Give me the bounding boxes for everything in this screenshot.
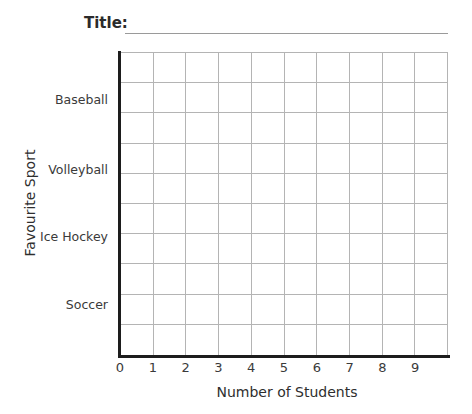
grid-cell[interactable] [153, 234, 186, 264]
grid-cell[interactable] [153, 264, 186, 294]
grid-cell[interactable] [316, 113, 349, 143]
grid-cell[interactable] [349, 325, 382, 355]
grid-cell[interactable] [284, 83, 317, 113]
grid-cell[interactable] [414, 204, 447, 234]
grid-cell[interactable] [218, 204, 251, 234]
grid-cell[interactable] [185, 83, 218, 113]
grid-cell[interactable] [153, 83, 186, 113]
grid-cell[interactable] [120, 264, 153, 294]
grid-cell[interactable] [120, 53, 153, 83]
grid-cell[interactable] [185, 144, 218, 174]
grid-cell[interactable] [414, 174, 447, 204]
grid-cell[interactable] [284, 234, 317, 264]
grid-cell[interactable] [414, 113, 447, 143]
grid-cell[interactable] [414, 83, 447, 113]
grid-cell[interactable] [185, 264, 218, 294]
grid-cell[interactable] [349, 204, 382, 234]
grid-cell[interactable] [218, 174, 251, 204]
grid-cell[interactable] [185, 295, 218, 325]
grid-cell[interactable] [185, 113, 218, 143]
grid-cell[interactable] [349, 295, 382, 325]
grid-cell[interactable] [185, 204, 218, 234]
grid-cell[interactable] [251, 204, 284, 234]
grid-cell[interactable] [153, 174, 186, 204]
grid-cell[interactable] [218, 83, 251, 113]
grid-cell[interactable] [185, 53, 218, 83]
grid-cell[interactable] [349, 53, 382, 83]
grid-cell[interactable] [218, 295, 251, 325]
grid-cell[interactable] [120, 113, 153, 143]
grid-cell[interactable] [414, 144, 447, 174]
grid-cell[interactable] [251, 295, 284, 325]
grid-cell[interactable] [316, 325, 349, 355]
grid-cell[interactable] [284, 325, 317, 355]
grid-cell[interactable] [153, 144, 186, 174]
grid-cell[interactable] [316, 53, 349, 83]
grid-cell[interactable] [414, 234, 447, 264]
grid-cell[interactable] [414, 53, 447, 83]
grid-cell[interactable] [284, 295, 317, 325]
grid-cell[interactable] [284, 53, 317, 83]
grid-cell[interactable] [382, 174, 415, 204]
grid-cell[interactable] [316, 295, 349, 325]
grid-cell[interactable] [251, 234, 284, 264]
grid-cell[interactable] [284, 144, 317, 174]
grid-cell[interactable] [382, 234, 415, 264]
grid-cell[interactable] [349, 174, 382, 204]
grid-cell[interactable] [218, 264, 251, 294]
grid-cell[interactable] [251, 174, 284, 204]
grid-cell[interactable] [382, 53, 415, 83]
grid-cell[interactable] [251, 113, 284, 143]
grid-cell[interactable] [414, 264, 447, 294]
grid-cell[interactable] [349, 264, 382, 294]
grid-cell[interactable] [120, 174, 153, 204]
grid-cell[interactable] [284, 174, 317, 204]
grid-cell[interactable] [218, 144, 251, 174]
grid-cell[interactable] [382, 113, 415, 143]
grid-cell[interactable] [251, 264, 284, 294]
grid-cell[interactable] [153, 204, 186, 234]
grid-cell[interactable] [251, 83, 284, 113]
grid-cell[interactable] [382, 83, 415, 113]
grid-cell[interactable] [218, 53, 251, 83]
grid-cell[interactable] [120, 83, 153, 113]
grid-cell[interactable] [284, 204, 317, 234]
grid-cell[interactable] [153, 53, 186, 83]
grid-cell[interactable] [120, 144, 153, 174]
grid-cell[interactable] [316, 264, 349, 294]
grid-cell[interactable] [349, 144, 382, 174]
grid-cell[interactable] [414, 325, 447, 355]
grid-cell[interactable] [316, 83, 349, 113]
grid-cell[interactable] [153, 295, 186, 325]
grid-cell[interactable] [382, 325, 415, 355]
grid-cell[interactable] [185, 325, 218, 355]
grid-cell[interactable] [349, 83, 382, 113]
grid-cell[interactable] [218, 234, 251, 264]
chart-grid[interactable] [120, 52, 448, 355]
grid-cell[interactable] [120, 295, 153, 325]
grid-cell[interactable] [284, 264, 317, 294]
grid-cell[interactable] [382, 264, 415, 294]
grid-cell[interactable] [185, 234, 218, 264]
grid-cell[interactable] [251, 144, 284, 174]
grid-cell[interactable] [414, 295, 447, 325]
grid-cell[interactable] [316, 144, 349, 174]
grid-cell[interactable] [284, 113, 317, 143]
grid-cell[interactable] [120, 204, 153, 234]
grid-cell[interactable] [251, 53, 284, 83]
grid-cell[interactable] [382, 295, 415, 325]
grid-cell[interactable] [218, 325, 251, 355]
grid-cell[interactable] [316, 204, 349, 234]
grid-cell[interactable] [382, 144, 415, 174]
grid-cell[interactable] [120, 234, 153, 264]
grid-cell[interactable] [153, 325, 186, 355]
grid-cell[interactable] [349, 113, 382, 143]
grid-cell[interactable] [382, 204, 415, 234]
grid-cell[interactable] [316, 174, 349, 204]
grid-cell[interactable] [218, 113, 251, 143]
grid-cell[interactable] [251, 325, 284, 355]
grid-cell[interactable] [349, 234, 382, 264]
grid-cell[interactable] [153, 113, 186, 143]
grid-cell[interactable] [120, 325, 153, 355]
title-input[interactable] [125, 14, 448, 34]
